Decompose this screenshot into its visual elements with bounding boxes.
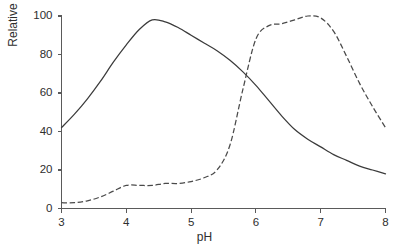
x-tick-label: 7 [301, 217, 341, 229]
series-dashed-line [62, 16, 386, 203]
x-axis-ticks [62, 209, 386, 213]
y-axis-title-text: Relative activity [2, 0, 24, 131]
y-tick-label: 0 [0, 203, 53, 215]
y-axis-ticks [58, 16, 62, 209]
chart-series-group [62, 16, 386, 203]
x-tick-label: 6 [236, 217, 276, 229]
x-tick-label: 4 [106, 217, 146, 229]
y-tick-label: 20 [0, 164, 53, 176]
x-tick-label: 8 [366, 217, 406, 229]
chart-figure: 020406080100 345678 pH Relative activity [0, 0, 409, 252]
chart-plot-area [0, 0, 409, 252]
series-solid-line [62, 19, 386, 173]
y-axis-title: Relative activity [2, 0, 24, 128]
x-axis-title: pH [0, 231, 409, 243]
chart-axes [58, 16, 386, 213]
x-tick-label: 5 [171, 217, 211, 229]
x-tick-label: 3 [42, 217, 82, 229]
